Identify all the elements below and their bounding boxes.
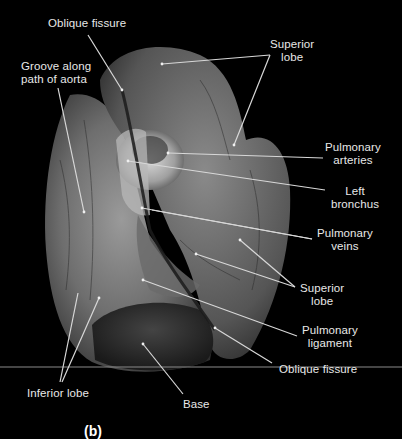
label-superior-lobe-mid: Superior lobe <box>300 282 344 307</box>
base-shape <box>92 303 213 371</box>
label-superior-lobe-top: Superior lobe <box>270 38 314 63</box>
panel-letter: (b) <box>84 424 102 438</box>
label-pulmonary-ligament: Pulmonary ligament <box>302 324 358 349</box>
label-inferior-lobe: Inferior lobe <box>27 387 89 400</box>
label-pulmonary-veins: Pulmonary veins <box>317 227 373 252</box>
label-pulmonary-arteries: Pulmonary arteries <box>325 141 381 166</box>
label-groove-aorta: Groove along path of aorta <box>21 60 91 85</box>
label-left-bronchus: Left bronchus <box>326 185 384 210</box>
leader-superior-lobe-top-b <box>234 55 270 145</box>
label-base: Base <box>183 398 210 411</box>
label-oblique-fissure-top: Oblique fissure <box>48 17 126 30</box>
label-oblique-fissure-bottom: Oblique fissure <box>279 363 357 376</box>
